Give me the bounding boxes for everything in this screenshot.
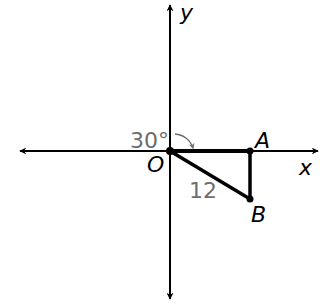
rotation-arc-icon [175, 134, 193, 148]
point-a-label: A [253, 128, 270, 153]
x-axis-label: x [298, 155, 313, 180]
point-b-label: B [251, 202, 266, 227]
length-label: 12 [189, 178, 217, 203]
origin-label: O [147, 152, 164, 177]
y-axis-label: y [179, 0, 194, 25]
coordinate-diagram: y x O A B 30° 12 [0, 0, 326, 304]
point-a [247, 148, 254, 155]
angle-label: 30° [130, 128, 169, 153]
